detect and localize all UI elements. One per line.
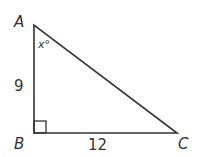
side-label-bc: 12 [88,136,107,154]
triangle-abc [34,25,177,133]
right-angle-marker [34,121,46,133]
vertex-label-a: A [13,13,24,31]
side-label-ab: 9 [14,77,24,95]
right-triangle-diagram: A B C 9 12 x° [0,0,197,157]
angle-label-a: x° [37,38,50,51]
vertex-label-c: C [178,135,189,153]
vertex-label-b: B [14,135,24,153]
